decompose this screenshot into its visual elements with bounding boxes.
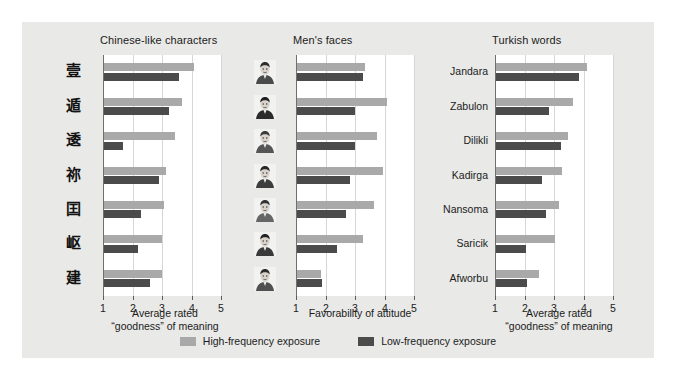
bar-low-4 [104, 176, 159, 184]
turkish-word-label-4: Kadirga [408, 169, 488, 181]
tick-mark [495, 296, 496, 300]
tick-mark [192, 296, 193, 300]
tick-mark [296, 296, 297, 300]
bar-high-1 [496, 63, 587, 71]
axis-caption-faces: Favorability of attitude [270, 307, 450, 320]
gridline [192, 55, 193, 296]
legend-item-low: Low-frequency exposure [358, 335, 496, 347]
bar-high-5 [104, 201, 164, 209]
bar-high-1 [297, 63, 365, 71]
turkish-word-label-5: Nansoma [408, 203, 488, 215]
bar-low-5 [496, 210, 546, 218]
gridline [613, 55, 614, 296]
panel-title-turkish: Turkish words [492, 34, 561, 46]
chinese-character-2: 遁 [60, 98, 86, 114]
legend-label-low: Low-frequency exposure [381, 335, 496, 347]
axis-caption-turkish: Average rated “goodness” of meaning [474, 307, 644, 332]
gridline [385, 55, 386, 296]
gridline [584, 55, 585, 296]
bar-high-3 [297, 132, 377, 140]
bar-low-2 [104, 107, 169, 115]
turkish-word-label-2: Zabulon [408, 100, 488, 112]
tick-mark [326, 296, 327, 300]
bar-low-4 [496, 176, 542, 184]
bar-low-6 [297, 245, 337, 253]
legend-swatch-high-icon [180, 337, 196, 346]
chinese-character-7: 建 [60, 270, 86, 286]
bar-high-4 [297, 167, 383, 175]
bar-high-2 [496, 98, 573, 106]
bar-high-1 [104, 63, 194, 71]
tick-mark [525, 296, 526, 300]
face-thumbnail-6 [254, 232, 276, 256]
bar-low-1 [496, 73, 579, 81]
tick-mark [584, 296, 585, 300]
tick-mark [554, 296, 555, 300]
face-thumbnail-2 [254, 95, 276, 119]
bar-high-7 [297, 270, 321, 278]
bar-low-2 [297, 107, 355, 115]
panel-title-chinese: Chinese-like characters [100, 34, 217, 46]
tick-mark [414, 296, 415, 300]
bar-high-5 [496, 201, 559, 209]
face-thumbnail-5 [254, 198, 276, 222]
turkish-word-label-3: Dilikli [408, 134, 488, 146]
turkish-word-label-6: Saricik [408, 237, 488, 249]
face-thumbnail-4 [254, 164, 276, 188]
bar-high-5 [297, 201, 374, 209]
bar-low-7 [297, 279, 322, 287]
bar-low-3 [496, 142, 561, 150]
turkish-word-label-1: Jandara [408, 65, 488, 77]
tick-mark [355, 296, 356, 300]
bar-high-7 [496, 270, 539, 278]
face-thumbnail-3 [254, 129, 276, 153]
legend: High-frequency exposure Low-frequency ex… [22, 335, 654, 347]
chinese-character-1: 壹 [60, 63, 86, 79]
face-thumbnail-1 [254, 60, 276, 84]
bar-low-3 [297, 142, 355, 150]
tick-mark [133, 296, 134, 300]
bar-low-7 [496, 279, 527, 287]
gridline [221, 55, 222, 296]
bar-low-6 [104, 245, 138, 253]
bar-low-5 [297, 210, 346, 218]
chinese-character-5: 囯 [60, 201, 86, 217]
bar-low-2 [496, 107, 549, 115]
bar-high-3 [496, 132, 568, 140]
bar-low-5 [104, 210, 141, 218]
tick-mark [103, 296, 104, 300]
axis-caption-chinese: Average rated “goodness” of meaning [80, 307, 250, 332]
chinese-character-6: 岖 [60, 235, 86, 251]
plot-area-chinese [103, 55, 221, 296]
bar-high-2 [297, 98, 387, 106]
legend-item-high: High-frequency exposure [180, 335, 320, 347]
bar-low-4 [297, 176, 350, 184]
tick-mark [385, 296, 386, 300]
bar-low-7 [104, 279, 150, 287]
plot-area-turkish [495, 55, 613, 296]
tick-mark [162, 296, 163, 300]
chinese-character-4: 祢 [60, 167, 86, 183]
tick-mark [613, 296, 614, 300]
panel-title-faces: Men's faces [293, 34, 352, 46]
bar-low-6 [496, 245, 526, 253]
tick-mark [221, 296, 222, 300]
bar-high-4 [104, 167, 166, 175]
chinese-character-3: 逶 [60, 132, 86, 148]
bar-high-6 [104, 235, 162, 243]
plot-area-faces [296, 55, 414, 296]
gridline [554, 55, 555, 296]
face-thumbnail-7 [254, 267, 276, 291]
bar-high-4 [496, 167, 562, 175]
figure-panel: Chinese-like characters 壹遁逶祢囯岖建 12345 Av… [22, 22, 654, 358]
turkish-word-label-7: Afworbu [408, 272, 488, 284]
bar-high-7 [104, 270, 162, 278]
bar-high-6 [496, 235, 555, 243]
bar-high-2 [104, 98, 182, 106]
legend-swatch-low-icon [358, 337, 374, 346]
gridline [355, 55, 356, 296]
bar-high-6 [297, 235, 363, 243]
bar-low-3 [104, 142, 123, 150]
bar-low-1 [297, 73, 363, 81]
gridline [162, 55, 163, 296]
